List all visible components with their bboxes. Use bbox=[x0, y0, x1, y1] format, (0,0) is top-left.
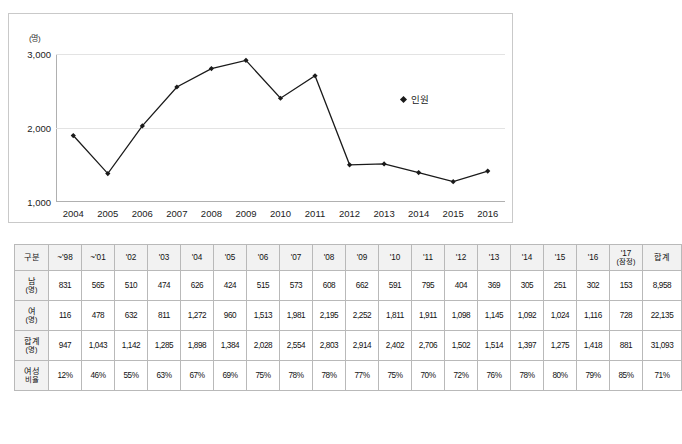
x-tick-label: 2008 bbox=[201, 208, 222, 219]
table-cell: 251 bbox=[544, 271, 577, 301]
table-cell: 728 bbox=[610, 301, 643, 331]
row-head-sub: (명) bbox=[15, 346, 48, 355]
x-tick-label: 2010 bbox=[270, 208, 291, 219]
chart-panel: (명) 1,0002,0003,000 20042005200620072008… bbox=[8, 13, 513, 223]
table-column-header: '14 bbox=[511, 245, 544, 271]
plot-area: 1,0002,0003,000 200420052006200720082009… bbox=[56, 54, 505, 202]
table-cell: 626 bbox=[181, 271, 214, 301]
table-cell: 632 bbox=[115, 301, 148, 331]
table-column-header-구분: 구분 bbox=[15, 245, 49, 271]
table-cell: 478 bbox=[82, 301, 115, 331]
table-cell: 795 bbox=[412, 271, 445, 301]
table-column-header: ~'98 bbox=[49, 245, 82, 271]
y-tick-label: 2,000 bbox=[27, 123, 51, 134]
table-cell: 608 bbox=[313, 271, 346, 301]
table-column-header: '07 bbox=[280, 245, 313, 271]
table-cell: 2,402 bbox=[379, 331, 412, 361]
table-column-header: '03 bbox=[148, 245, 181, 271]
table-cell: 1,384 bbox=[214, 331, 247, 361]
table-cell: 46% bbox=[82, 361, 115, 391]
table-cell: 72% bbox=[445, 361, 478, 391]
data-point-marker bbox=[416, 170, 421, 175]
table-cell: 662 bbox=[346, 271, 379, 301]
table-cell: 75% bbox=[379, 361, 412, 391]
table-cell: 1,898 bbox=[181, 331, 214, 361]
table-cell-total: 31,093 bbox=[643, 331, 682, 361]
table-cell: 12% bbox=[49, 361, 82, 391]
table-cell: 55% bbox=[115, 361, 148, 391]
data-table: 구분~'98~'01'02'03'04'05'06'07'08'09'10'11… bbox=[14, 244, 682, 391]
x-tick-label: 2006 bbox=[132, 208, 153, 219]
table-row-header: 남(명) bbox=[15, 271, 49, 301]
table-cell: 1,024 bbox=[544, 301, 577, 331]
table-cell: 1,513 bbox=[247, 301, 280, 331]
table-cell: 510 bbox=[115, 271, 148, 301]
table-cell: 1,043 bbox=[82, 331, 115, 361]
table-cell: 2,803 bbox=[313, 331, 346, 361]
table-cell: 78% bbox=[313, 361, 346, 391]
table-cell: 1,418 bbox=[577, 331, 610, 361]
table-cell: 79% bbox=[577, 361, 610, 391]
table-column-header: '04 bbox=[181, 245, 214, 271]
table-cell: 831 bbox=[49, 271, 82, 301]
table-cell: 811 bbox=[148, 301, 181, 331]
table-cell: 1,981 bbox=[280, 301, 313, 331]
table-cell: 2,706 bbox=[412, 331, 445, 361]
table-cell: 1,145 bbox=[478, 301, 511, 331]
x-tick-label: 2005 bbox=[97, 208, 118, 219]
table-cell: 153 bbox=[610, 271, 643, 301]
chart-legend: 인원 bbox=[401, 92, 429, 106]
table-cell: 369 bbox=[478, 271, 511, 301]
table-cell: 75% bbox=[247, 361, 280, 391]
table-cell: 1,911 bbox=[412, 301, 445, 331]
table-column-header: '16 bbox=[577, 245, 610, 271]
table-cell: 947 bbox=[49, 331, 82, 361]
table-column-header: '02 bbox=[115, 245, 148, 271]
table-cell: 1,811 bbox=[379, 301, 412, 331]
table-cell: 305 bbox=[511, 271, 544, 301]
x-tick-label: 2009 bbox=[235, 208, 256, 219]
data-point-marker bbox=[209, 66, 214, 71]
table-column-header: '09 bbox=[346, 245, 379, 271]
table-cell: 591 bbox=[379, 271, 412, 301]
table-cell: 85% bbox=[610, 361, 643, 391]
table-column-header-total: 합계 bbox=[643, 245, 682, 271]
data-point-marker bbox=[347, 162, 352, 167]
table-cell: 1,142 bbox=[115, 331, 148, 361]
x-tick-label: 2012 bbox=[339, 208, 360, 219]
y-axis-unit-label: (명) bbox=[29, 32, 40, 43]
col-17-sub: (잠정) bbox=[610, 258, 642, 267]
series-line-인원 bbox=[56, 54, 505, 202]
x-tick-label: 2007 bbox=[166, 208, 187, 219]
table-cell: 1,514 bbox=[478, 331, 511, 361]
table-cell: 404 bbox=[445, 271, 478, 301]
table-column-header: '13 bbox=[478, 245, 511, 271]
y-tick-label: 3,000 bbox=[27, 49, 51, 60]
table-cell: 2,914 bbox=[346, 331, 379, 361]
table-cell: 960 bbox=[214, 301, 247, 331]
table-cell: 2,195 bbox=[313, 301, 346, 331]
table-cell: 424 bbox=[214, 271, 247, 301]
table-column-header: ~'01 bbox=[82, 245, 115, 271]
table-cell-total: 71% bbox=[643, 361, 682, 391]
table-cell: 1,397 bbox=[511, 331, 544, 361]
table-row: 여성비율12%46%55%63%67%69%75%78%78%77%75%70%… bbox=[15, 361, 682, 391]
table-cell: 63% bbox=[148, 361, 181, 391]
data-point-marker bbox=[451, 179, 456, 184]
table-cell: 1,502 bbox=[445, 331, 478, 361]
table-header: 구분~'98~'01'02'03'04'05'06'07'08'09'10'11… bbox=[15, 245, 682, 271]
data-point-marker bbox=[382, 161, 387, 166]
table-column-header-17: '17(잠정) bbox=[610, 245, 643, 271]
table-row: 남(명)831565510474626424515573608662591795… bbox=[15, 271, 682, 301]
table-cell: 573 bbox=[280, 271, 313, 301]
table-cell: 1,285 bbox=[148, 331, 181, 361]
table-row: 합계(명)9471,0431,1421,2851,8981,3842,0282,… bbox=[15, 331, 682, 361]
data-point-marker bbox=[485, 168, 490, 173]
table-cell: 881 bbox=[610, 331, 643, 361]
table-cell: 2,028 bbox=[247, 331, 280, 361]
table-row-header: 여성비율 bbox=[15, 361, 49, 391]
legend-label-인원: 인원 bbox=[411, 92, 429, 106]
table-cell: 2,554 bbox=[280, 331, 313, 361]
x-tick-label: 2016 bbox=[477, 208, 498, 219]
table-column-header: '08 bbox=[313, 245, 346, 271]
